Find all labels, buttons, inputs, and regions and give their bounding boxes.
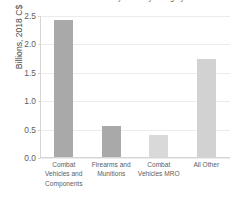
bar <box>102 126 121 157</box>
x-axis-tick-label: Firearms and Munitions <box>87 160 135 179</box>
bar <box>197 59 216 157</box>
y-axis-title: Billions, 2018 C$ <box>14 0 24 89</box>
y-axis-tick-label: 0.5 <box>24 125 36 135</box>
x-axis-tick-label: All Other <box>182 160 230 169</box>
x-axis-tick-labels: Combat Vehicles and ComponentsFirearms a… <box>40 160 230 197</box>
bar-chart-figure: Canadian Military Sales by Category Bill… <box>0 0 234 197</box>
x-axis-line <box>40 157 230 158</box>
y-axis-line <box>40 16 41 158</box>
gridline <box>40 16 230 17</box>
x-axis-tick-label: Combat Vehicles MRO <box>135 160 183 179</box>
bar <box>54 20 73 157</box>
gridline <box>40 158 230 159</box>
plot-area: 0.00.51.01.52.02.5 <box>40 16 230 158</box>
y-axis-tick-label: 2.5 <box>24 11 36 21</box>
x-axis-tick-label: Combat Vehicles and Components <box>40 160 88 188</box>
y-axis-tick-label: 1.5 <box>24 68 36 78</box>
bar <box>149 135 168 157</box>
y-axis-tick-label: 0.0 <box>24 153 36 163</box>
y-axis-tick-mark <box>38 158 40 159</box>
y-axis-tick-label: 2.0 <box>24 39 36 49</box>
chart-title: Canadian Military Sales by Category <box>22 0 227 2</box>
y-axis-tick-label: 1.0 <box>24 96 36 106</box>
